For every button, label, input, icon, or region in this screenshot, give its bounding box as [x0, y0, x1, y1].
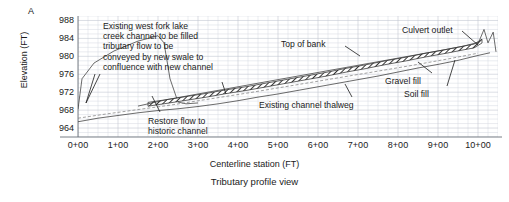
x-tick-label: 5+00 [256, 140, 300, 150]
tributary-profile-figure: A Elevation (FT) [0, 0, 509, 202]
x-tick-label: 1+00 [96, 140, 140, 150]
x-axis-title: Centerline station (FT) [0, 159, 509, 169]
culvert-outlet-label: Culvert outlet [402, 25, 453, 35]
restore-flow-note: Restore flow to historic channel [148, 116, 208, 136]
existing-channel-thalweg-label: Existing channel thalweg [259, 100, 354, 110]
x-tick-label: 3+00 [176, 140, 220, 150]
soil-fill-label: Soil fill [404, 89, 429, 99]
existing-channel-fill-note: Existing west fork lake creek channel to… [103, 21, 213, 72]
x-tick-label: 10+00 [456, 140, 500, 150]
gravel-fill-label: Gravel fill [385, 76, 421, 86]
x-tick-label: 6+00 [296, 140, 340, 150]
x-tick-label: 4+00 [216, 140, 260, 150]
top-of-bank-label: Top of bank [281, 39, 325, 49]
x-tick-label: 8+00 [376, 140, 420, 150]
x-tick-label: 2+00 [136, 140, 180, 150]
x-tick-label: 9+00 [416, 140, 460, 150]
x-tick-label: 0+00 [56, 140, 100, 150]
figure-caption: Tributary profile view [0, 176, 509, 187]
x-tick-label: 7+00 [336, 140, 380, 150]
